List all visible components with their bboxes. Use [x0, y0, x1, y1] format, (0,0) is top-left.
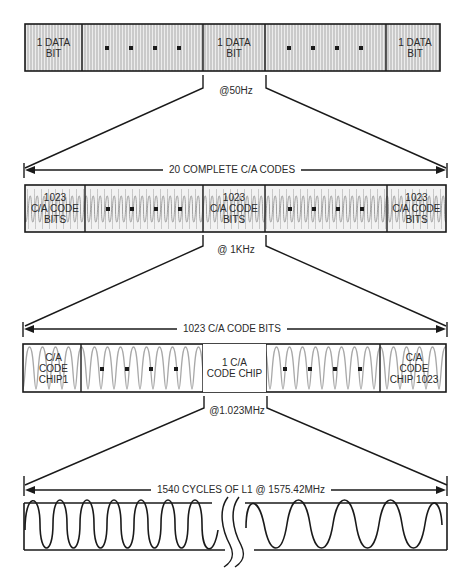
level2-cell-1-label: 1023 C/A CODE BITS — [25, 185, 85, 232]
level1-cell-3-label: 1 DATA BIT — [203, 24, 265, 71]
level1-ellipsis-1 — [95, 45, 191, 50]
level2-cell-3-label: 1023 C/A CODE BITS — [203, 185, 265, 232]
ellipsis-dot-icon — [149, 367, 153, 371]
ellipsis-dot-icon — [105, 46, 109, 50]
ellipsis-dot-icon — [283, 367, 287, 371]
level2-span-label: 20 COMPLETE C/A CODES — [163, 164, 301, 176]
level4-l1-carrier — [24, 497, 447, 567]
ellipsis-dot-icon — [174, 367, 178, 371]
level3-cell-1-label: C/A CODE CHIP1 — [26, 344, 81, 392]
ellipsis-dot-icon — [106, 207, 110, 211]
ellipsis-dot-icon — [359, 46, 363, 50]
level3-rate-label: @1.023MHz — [202, 405, 272, 416]
level3-cell-3-label: 1 C/A CODE CHIP — [203, 344, 266, 392]
ellipsis-dot-icon — [358, 367, 362, 371]
ellipsis-dot-icon — [287, 46, 291, 50]
level1-rate-label: @50Hz — [206, 85, 266, 96]
level1-cell-1-label: 1 DATA BIT — [25, 24, 82, 71]
level2-cell-5-label: 1023 C/A CODE BITS — [387, 185, 446, 232]
ellipsis-dot-icon — [336, 207, 340, 211]
ellipsis-dot-icon — [154, 207, 158, 211]
ellipsis-dot-icon — [178, 207, 182, 211]
ellipsis-dot-icon — [153, 46, 157, 50]
ellipsis-dot-icon — [312, 207, 316, 211]
level2-ellipsis-1 — [96, 206, 192, 211]
ellipsis-dot-icon — [125, 367, 129, 371]
ellipsis-dot-icon — [311, 46, 315, 50]
ellipsis-dot-icon — [177, 46, 181, 50]
ellipsis-dot-icon — [360, 207, 364, 211]
ellipsis-dot-icon — [130, 207, 134, 211]
level2-ellipsis-2 — [278, 206, 374, 211]
ellipsis-dot-icon — [333, 367, 337, 371]
ellipsis-dot-icon — [288, 207, 292, 211]
level3-ellipsis-2 — [272, 366, 372, 371]
level1-ellipsis-2 — [277, 45, 373, 50]
ellipsis-dot-icon — [335, 46, 339, 50]
ellipsis-dot-icon — [100, 367, 104, 371]
level4-span-label: 1540 CYCLES OF L1 @ 1575.42MHz — [151, 484, 331, 496]
ellipsis-dot-icon — [129, 46, 133, 50]
ellipsis-dot-icon — [308, 367, 312, 371]
level3-ellipsis-1 — [90, 366, 188, 371]
level2-rate-label: @ 1KHz — [206, 244, 266, 255]
level3-cell-5-label: C/A CODE CHIP 1023 — [382, 344, 446, 392]
level1-cell-5-label: 1 DATA BIT — [386, 24, 444, 71]
level3-span-label: 1023 C/A CODE BITS — [177, 323, 287, 335]
